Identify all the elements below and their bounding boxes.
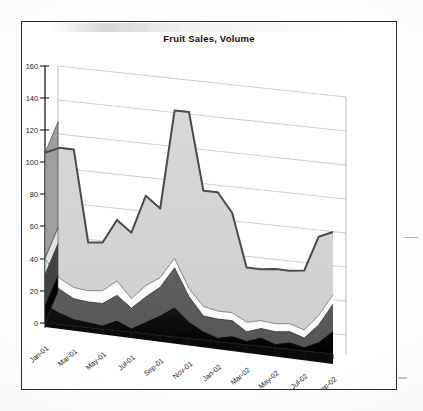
x-tick-label: Sep-02	[315, 375, 339, 390]
chart-plot-area: 160 140 120 100 80 60 40 20 0 Jan-01Mar-…	[22, 22, 397, 390]
x-tick-label: Mar-02	[229, 365, 252, 387]
x-tick-label: Jan-01	[28, 344, 51, 365]
x-tick-label: Jul-01	[116, 353, 137, 372]
y-tick-0: 0	[34, 319, 38, 328]
x-tick-label: Nov-01	[171, 359, 195, 381]
stacked-area-series	[45, 110, 333, 364]
scan-artifact-right	[404, 237, 418, 238]
y-tick-80: 80	[30, 190, 38, 199]
y-tick-120: 120	[26, 126, 38, 135]
chart-frame: Fruit Sales, Volume	[21, 21, 397, 390]
x-tick-label: May-01	[84, 350, 108, 372]
y-tick-20: 20	[30, 287, 38, 296]
y-tick-60: 60	[30, 222, 38, 231]
y-tick-140: 140	[26, 94, 38, 103]
scan-artifact-corner	[398, 377, 407, 379]
x-tick-label: May-02	[257, 368, 281, 390]
y-tick-160: 160	[26, 62, 38, 71]
x-tick-label: Mar-01	[56, 347, 79, 369]
x-tick-label: Sep-01	[142, 356, 166, 378]
y-tick-100: 100	[26, 158, 38, 167]
y-tick-40: 40	[30, 255, 38, 264]
x-tick-label: Jul-02	[289, 372, 310, 390]
x-tick-label: Jan-02	[200, 362, 223, 383]
